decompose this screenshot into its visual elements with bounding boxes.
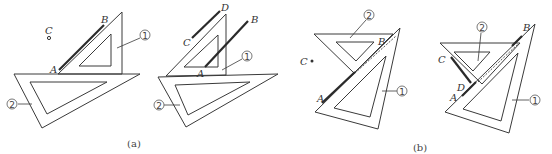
label-2: 2 bbox=[479, 23, 485, 33]
label-c: C bbox=[45, 25, 53, 36]
label-2: 2 bbox=[9, 100, 15, 110]
caption-b: (b) bbox=[413, 142, 427, 153]
label-c: C bbox=[438, 54, 446, 65]
label-2: 2 bbox=[366, 11, 372, 21]
label-2: 2 bbox=[156, 101, 162, 111]
panel-b-figure-2: C D A B 2 1 bbox=[438, 22, 540, 133]
line-ab bbox=[322, 72, 355, 103]
leader-2 bbox=[478, 33, 481, 61]
label-b: B bbox=[377, 36, 385, 47]
triangle-1-inner bbox=[334, 56, 386, 117]
label-b: B bbox=[522, 22, 530, 33]
label-a: A bbox=[196, 68, 204, 79]
label-d: D bbox=[456, 82, 465, 93]
panel-a-figure-1: C A B 1 2 bbox=[7, 12, 150, 128]
triangle-1-outer bbox=[58, 12, 122, 74]
label-1: 1 bbox=[244, 52, 250, 62]
triangle-1-outer bbox=[445, 24, 535, 133]
triangle-2-inner bbox=[175, 82, 250, 115]
label-1: 1 bbox=[532, 96, 538, 106]
point-c bbox=[47, 36, 50, 39]
label-a: A bbox=[316, 93, 324, 104]
leader-1 bbox=[117, 38, 140, 48]
panel-b-figure-1: C A B 2 1 bbox=[300, 10, 407, 129]
label-a: A bbox=[449, 92, 457, 103]
caption-a: (a) bbox=[127, 138, 141, 149]
panel-a-figure-2: C D B A 1 2 bbox=[154, 2, 278, 127]
leader-2 bbox=[350, 20, 366, 38]
label-1: 1 bbox=[142, 31, 148, 41]
point-c bbox=[311, 60, 314, 63]
label-a: A bbox=[49, 64, 57, 75]
label-b: B bbox=[100, 14, 108, 25]
leader-1 bbox=[222, 59, 242, 70]
label-c: C bbox=[183, 37, 191, 48]
triangle-2-outer bbox=[158, 74, 278, 127]
set-square-diagram: C A B 1 2 C D B A 1 2 (a) bbox=[0, 0, 552, 154]
label-c: C bbox=[300, 56, 308, 67]
label-1: 1 bbox=[399, 87, 405, 97]
label-b: B bbox=[250, 14, 258, 25]
label-d: D bbox=[220, 2, 229, 13]
